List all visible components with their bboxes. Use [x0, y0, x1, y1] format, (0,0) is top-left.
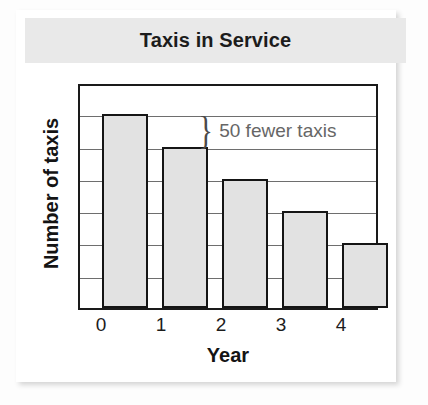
- bar-year-4: [342, 243, 388, 308]
- x-tick-label-1: 1: [146, 314, 176, 336]
- x-tick-label-2: 2: [206, 314, 236, 336]
- bar-chart: } 50 fewer taxis 0 1 2 3 4 Year Number o…: [0, 0, 428, 405]
- x-tick-label-3: 3: [266, 314, 296, 336]
- bar-year-3: [282, 211, 328, 308]
- bar-year-2: [222, 179, 268, 308]
- annotation-label: 50 fewer taxis: [219, 120, 336, 142]
- x-tick-label-4: 4: [326, 314, 356, 336]
- y-axis-title: Number of taxis: [40, 81, 63, 307]
- x-axis-title: Year: [78, 344, 378, 367]
- bar-year-1: [162, 147, 208, 308]
- bar-year-0: [102, 114, 148, 308]
- difference-annotation: } 50 fewer taxis: [196, 112, 336, 150]
- x-tick-label-0: 0: [86, 314, 116, 336]
- screenshot-root: Taxis in Service } 50 fewer taxis 0 1: [0, 0, 428, 405]
- curly-brace-icon: }: [198, 115, 212, 147]
